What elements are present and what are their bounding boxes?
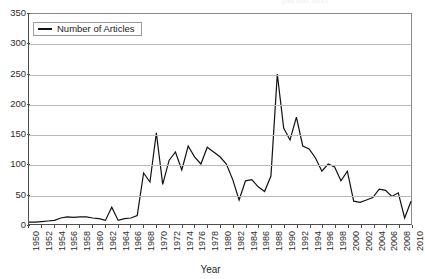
y-tick-label: 150 bbox=[2, 129, 26, 139]
y-tick-mark bbox=[27, 164, 30, 165]
y-tick-label: 100 bbox=[2, 159, 26, 169]
series-line-number-of-articles bbox=[29, 74, 411, 222]
x-tick-mark bbox=[220, 225, 221, 228]
x-tick-mark bbox=[156, 225, 157, 228]
x-tick-mark bbox=[92, 225, 93, 228]
gridline bbox=[29, 44, 411, 45]
x-tick-label: 1982 bbox=[237, 231, 246, 251]
x-tick-label: 2002 bbox=[365, 231, 374, 251]
x-tick-label: 1978 bbox=[211, 231, 220, 251]
x-tick-label: 1986 bbox=[262, 231, 271, 251]
x-tick-mark bbox=[182, 225, 183, 228]
legend-line-swatch-icon bbox=[38, 28, 52, 30]
y-tick-mark bbox=[27, 74, 30, 75]
gridline bbox=[29, 135, 411, 136]
y-tick-label: 0 bbox=[2, 220, 26, 230]
x-tick-label: 1950 bbox=[32, 231, 41, 251]
x-tick-label: 1988 bbox=[275, 231, 284, 251]
x-tick-mark bbox=[271, 225, 272, 228]
y-tick-label: 50 bbox=[2, 190, 26, 200]
x-tick-mark bbox=[386, 225, 387, 228]
x-tick-mark bbox=[297, 225, 298, 228]
y-tick-label: 350 bbox=[2, 8, 26, 18]
x-tick-label: 1980 bbox=[224, 231, 233, 251]
x-tick-label: 1990 bbox=[288, 231, 297, 251]
x-tick-mark bbox=[143, 225, 144, 228]
x-tick-mark bbox=[105, 225, 106, 228]
x-tick-mark bbox=[54, 225, 55, 228]
x-tick-label: 1976 bbox=[198, 231, 207, 251]
x-tick-mark bbox=[41, 225, 42, 228]
y-tick-label: 300 bbox=[2, 38, 26, 48]
x-tick-mark bbox=[310, 225, 311, 228]
x-tick-label: 2000 bbox=[352, 231, 361, 251]
x-tick-mark bbox=[399, 225, 400, 228]
x-tick-label: 1958 bbox=[83, 231, 92, 251]
x-tick-mark bbox=[66, 225, 67, 228]
y-axis: 050100150200250300350 bbox=[0, 0, 26, 240]
y-tick-mark bbox=[27, 104, 30, 105]
gridline bbox=[29, 165, 411, 166]
x-tick-label: 1970 bbox=[160, 231, 169, 251]
x-tick-mark bbox=[335, 225, 336, 228]
x-tick-mark bbox=[28, 225, 29, 228]
gridline bbox=[29, 75, 411, 76]
x-axis-title: Year bbox=[0, 264, 421, 275]
x-tick-label: 2010 bbox=[416, 231, 425, 251]
x-tick-label: 2006 bbox=[390, 231, 399, 251]
x-tick-mark bbox=[374, 225, 375, 228]
x-tick-label: 1968 bbox=[147, 231, 156, 251]
x-tick-mark bbox=[130, 225, 131, 228]
x-tick-mark bbox=[207, 225, 208, 228]
y-tick-mark bbox=[27, 134, 30, 135]
x-tick-mark bbox=[118, 225, 119, 228]
x-tick-label: 1960 bbox=[96, 231, 105, 251]
x-tick-label: 1998 bbox=[339, 231, 348, 251]
x-tick-label: 1964 bbox=[122, 231, 131, 251]
x-tick-label: 1972 bbox=[173, 231, 182, 251]
x-tick-mark bbox=[412, 225, 413, 228]
y-tick-label: 200 bbox=[2, 99, 26, 109]
x-tick-mark bbox=[194, 225, 195, 228]
x-tick-mark bbox=[348, 225, 349, 228]
x-tick-label: 1952 bbox=[45, 231, 54, 251]
y-tick-mark bbox=[27, 13, 30, 14]
x-tick-mark bbox=[246, 225, 247, 228]
x-tick-mark bbox=[361, 225, 362, 228]
y-tick-mark bbox=[27, 43, 30, 44]
x-tick-label: 1984 bbox=[250, 231, 259, 251]
legend-label: Number of Articles bbox=[57, 24, 135, 34]
plot-area bbox=[28, 13, 412, 225]
legend: Number of Articles bbox=[33, 22, 142, 36]
gridline bbox=[29, 105, 411, 106]
series-line-chart bbox=[29, 14, 411, 224]
x-tick-label: 1994 bbox=[314, 231, 323, 251]
x-tick-mark bbox=[233, 225, 234, 228]
cut-off-header-text: partial text bbox=[282, 0, 402, 6]
x-tick-label: 1992 bbox=[301, 231, 310, 251]
x-tick-mark bbox=[322, 225, 323, 228]
x-tick-label: 1956 bbox=[70, 231, 79, 251]
x-tick-mark bbox=[79, 225, 80, 228]
x-tick-mark bbox=[169, 225, 170, 228]
x-tick-mark bbox=[284, 225, 285, 228]
x-tick-mark bbox=[258, 225, 259, 228]
x-tick-label: 1974 bbox=[186, 231, 195, 251]
x-tick-label: 1954 bbox=[58, 231, 67, 251]
y-tick-label: 250 bbox=[2, 69, 26, 79]
x-tick-label: 2004 bbox=[378, 231, 387, 251]
x-tick-label: 1966 bbox=[134, 231, 143, 251]
x-tick-label: 1962 bbox=[109, 231, 118, 251]
x-tick-label: 2008 bbox=[403, 231, 412, 251]
gridline bbox=[29, 196, 411, 197]
x-tick-label: 1996 bbox=[326, 231, 335, 251]
y-tick-mark bbox=[27, 195, 30, 196]
